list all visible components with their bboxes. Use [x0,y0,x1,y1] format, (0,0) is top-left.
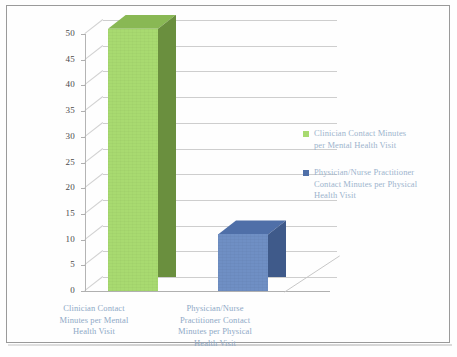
y-tick-label: 10 [49,234,75,244]
y-tick-label: 50 [49,28,75,38]
gridline-riser [84,19,103,34]
category-label-line: Health Visit [30,326,158,338]
legend-item-clinician[interactable]: Clinician Contact Minutesper Mental Heal… [302,128,450,151]
legend-label-line: Physician/Nurse Practitioner [314,167,450,179]
y-tick-label: 45 [49,54,75,64]
y-tick-label: 35 [49,105,75,115]
scan-grain [218,234,268,291]
gridline-riser [84,276,103,291]
scan-grain [108,29,158,291]
y-axis-line [85,34,86,292]
gridline-riser [84,148,103,163]
legend-label-line: Health Visit [314,190,450,202]
y-tick-label: 5 [49,259,75,269]
gridline-riser [84,251,103,266]
bar-front-face [218,234,268,291]
y-tick-label: 20 [49,182,75,192]
legend-label: Clinician Contact Minutesper Mental Heal… [314,128,450,151]
floor-depth-edge [284,254,342,294]
plot-area: 05101520253035404550 [40,14,340,299]
y-tick-label: 15 [49,208,75,218]
y-tick-label: 0 [49,285,75,295]
legend-item-physician[interactable]: Physician/Nurse PractitionerContact Minu… [302,167,450,202]
gridline-riser [84,225,103,240]
legend-swatch-blue [303,170,309,176]
legend-label-line: per Mental Health Visit [314,140,450,152]
bar-physician-contact[interactable] [218,220,268,291]
category-label-line: Minutes per Physical [150,326,280,338]
gridline-riser [84,71,103,86]
bar-front-face [108,29,158,291]
gridline-riser [84,96,103,111]
legend-label-line: Contact Minutes per Physical [314,179,450,191]
category-label-line: Physician/Nurse [150,303,280,315]
category-label-physician: Physician/NursePractitioner ContactMinut… [150,303,280,349]
chart-legend: Clinician Contact Minutesper Mental Heal… [302,128,450,218]
category-label-line: Health Visit [150,338,280,350]
bar-clinician-contact[interactable] [108,15,158,291]
category-label-line: Practitioner Contact [150,315,280,327]
legend-label-line: Clinician Contact Minutes [314,128,450,140]
chart-figure: 05101520253035404550 Clinician ContactMi… [0,0,457,357]
y-tick-label: 30 [49,131,75,141]
legend-swatch-green [303,131,309,137]
gridline-riser [84,199,103,214]
gridline-riser [84,122,103,137]
category-label-line: Minutes per Mental [30,315,158,327]
gridline-riser [84,45,103,60]
y-tick-label: 25 [49,157,75,167]
category-label-clinician: Clinician ContactMinutes per MentalHealt… [30,303,158,338]
y-tick-label: 40 [49,79,75,89]
category-label-line: Clinician Contact [30,303,158,315]
gridline-riser [84,173,103,188]
bar-side-face [158,15,176,277]
legend-label: Physician/Nurse PractitionerContact Minu… [314,167,450,202]
